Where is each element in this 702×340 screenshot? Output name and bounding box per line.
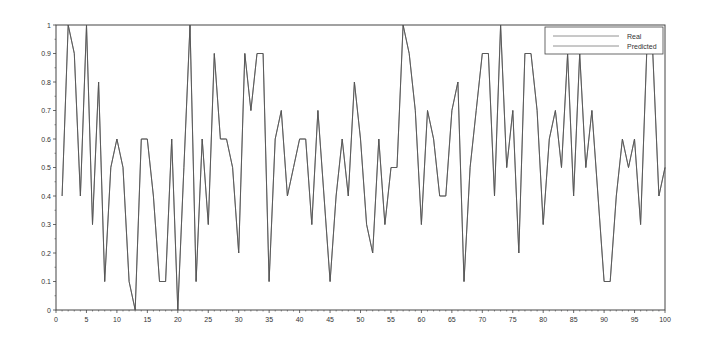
x-tick-label: 70	[478, 316, 486, 323]
y-tick-label: 0.7	[41, 107, 51, 114]
line-chart: 00.10.20.30.40.50.60.70.80.9105101520253…	[0, 0, 702, 340]
y-tick-label: 0.9	[41, 50, 51, 57]
legend-label-real: Real	[627, 33, 642, 40]
x-tick-label: 45	[326, 316, 334, 323]
y-tick-label: 0.6	[41, 136, 51, 143]
y-tick-label: 1	[47, 22, 51, 29]
x-tick-label: 20	[174, 316, 182, 323]
x-tick-label: 65	[448, 316, 456, 323]
chart-axes: 00.10.20.30.40.50.60.70.80.9105101520253…	[41, 22, 671, 324]
x-tick-label: 25	[204, 316, 212, 323]
x-tick-label: 30	[235, 316, 243, 323]
x-tick-label: 15	[143, 316, 151, 323]
chart-legend: Real Predicted	[545, 27, 663, 54]
y-tick-label: 0	[47, 307, 51, 314]
y-tick-label: 0.4	[41, 193, 51, 200]
plot-frame	[56, 25, 665, 310]
x-tick-label: 55	[387, 316, 395, 323]
y-tick-label: 0.2	[41, 250, 51, 257]
x-tick-label: 5	[84, 316, 88, 323]
y-tick-label: 0.3	[41, 221, 51, 228]
x-tick-label: 100	[659, 316, 671, 323]
x-tick-label: 0	[54, 316, 58, 323]
y-tick-label: 0.5	[41, 164, 51, 171]
x-tick-label: 50	[357, 316, 365, 323]
y-tick-label: 0.1	[41, 278, 51, 285]
x-tick-label: 40	[296, 316, 304, 323]
chart-series	[62, 25, 665, 310]
x-tick-label: 10	[113, 316, 121, 323]
y-tick-label: 0.8	[41, 79, 51, 86]
legend-label-predicted: Predicted	[627, 43, 657, 50]
series-line-predicted	[62, 25, 665, 310]
x-tick-label: 35	[265, 316, 273, 323]
x-tick-label: 85	[570, 316, 578, 323]
legend-box	[545, 27, 663, 54]
x-tick-label: 75	[509, 316, 517, 323]
x-tick-label: 80	[539, 316, 547, 323]
x-tick-label: 90	[600, 316, 608, 323]
x-tick-label: 60	[418, 316, 426, 323]
x-tick-label: 95	[631, 316, 639, 323]
